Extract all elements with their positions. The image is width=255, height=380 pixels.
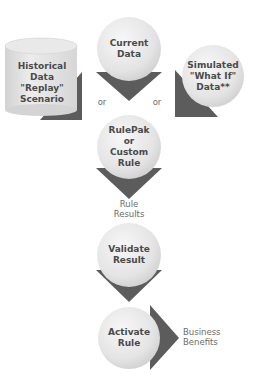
or-left-text: or xyxy=(94,97,110,107)
rulepak-line-2: or xyxy=(124,136,135,147)
rulepak-line-4: Rule xyxy=(118,158,141,169)
business-benefits-label: Business Benefits xyxy=(183,327,220,347)
rulepak-line-3: Custom xyxy=(110,147,148,158)
rule-results-label: Rule Results xyxy=(104,199,154,219)
current-data-label: Current Data xyxy=(97,35,161,63)
rule-results-line-1: Rule xyxy=(104,199,154,209)
activate-label: Activate Rule xyxy=(97,325,161,351)
historical-line-1: Historical xyxy=(18,61,66,72)
simulated-data-label: Simulated "What If" Data** xyxy=(181,58,245,94)
activate-line-1: Activate xyxy=(108,327,150,338)
activate-line-2: Rule xyxy=(118,338,141,349)
simulated-line-1: Simulated xyxy=(187,60,238,71)
rule-results-line-2: Results xyxy=(104,209,154,219)
simulated-line-3: Data** xyxy=(196,82,229,93)
historical-line-3: "Replay" xyxy=(20,83,64,94)
rulepak-label: RulePak or Custom Rule xyxy=(97,124,161,170)
or-left-label: or xyxy=(94,97,110,107)
historical-line-4: Scenario xyxy=(20,94,64,105)
validate-line-2: Result xyxy=(113,255,145,266)
or-right-label: or xyxy=(149,97,165,107)
current-line-2: Data xyxy=(117,49,141,60)
current-line-1: Current xyxy=(110,38,149,49)
rulepak-line-1: RulePak xyxy=(109,125,150,136)
historical-data-label: Historical Data "Replay" Scenario xyxy=(5,55,79,111)
or-right-text: or xyxy=(149,97,165,107)
validate-line-1: Validate xyxy=(108,244,150,255)
validate-label: Validate Result xyxy=(97,242,161,268)
business-benefits-line-2: Benefits xyxy=(183,337,220,347)
simulated-line-2: "What If" xyxy=(190,71,237,82)
business-benefits-line-1: Business xyxy=(183,327,220,337)
historical-line-2: Data xyxy=(30,72,54,83)
